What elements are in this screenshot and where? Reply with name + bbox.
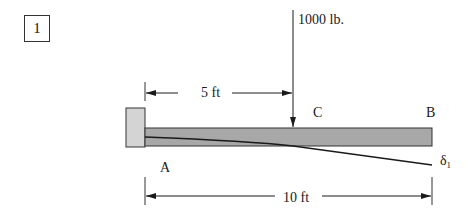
dimension-10ft-label: 10 ft <box>283 191 309 205</box>
beam-diagram <box>0 0 476 216</box>
dimension-5ft-label: 5 ft <box>201 86 220 100</box>
deflection-label: δ1 <box>440 154 451 170</box>
load-label: 1000 lb. <box>298 13 344 27</box>
deflection-subscript: 1 <box>447 160 452 170</box>
point-b-label: B <box>426 106 435 120</box>
beam <box>145 128 432 146</box>
point-c-label: C <box>313 106 322 120</box>
point-a-label: A <box>160 161 170 175</box>
deflection-symbol: δ <box>440 153 447 168</box>
fixed-support-wall <box>126 108 145 147</box>
